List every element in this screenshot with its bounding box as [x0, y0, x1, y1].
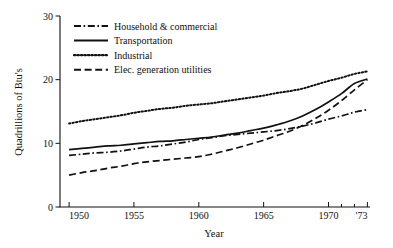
x-axis-tick-label: 1950 [69, 210, 89, 221]
y-axis-tick-label: 30 [43, 11, 53, 22]
legend-item: Elec. generation utilities [74, 64, 212, 75]
legend-item: Transportation [74, 35, 173, 46]
axis-spine [60, 16, 370, 207]
y-axis-tick-label: 0 [48, 202, 53, 213]
x-axis-tick-label: 1965 [254, 210, 274, 221]
x-axis-tick-label: 1970 [318, 210, 338, 221]
y-axis-tick-label: 10 [43, 138, 53, 149]
tick-label-layer: 010203019501955196019651970'73 [43, 11, 367, 221]
x-axis-tick-label: '73 [356, 210, 368, 221]
chart-figure: 010203019501955196019651970'73 Household… [0, 0, 393, 248]
legend-label: Household & commercial [114, 21, 218, 32]
y-axis-title: Quadrillions of Btu's [13, 68, 24, 156]
x-axis-tick-label: 1955 [124, 210, 144, 221]
legend-label: Industrial [114, 50, 153, 61]
x-axis-tick-label: 1960 [189, 210, 209, 221]
y-axis-tick-label: 20 [43, 74, 53, 85]
legend-label: Transportation [114, 35, 173, 46]
series-layer [69, 71, 367, 175]
axis-layer [56, 16, 371, 207]
legend-layer: Household & commercialTransportationIndu… [74, 21, 218, 76]
legend-item: Industrial [74, 50, 153, 61]
legend-label: Elec. generation utilities [114, 64, 212, 75]
energy-consumption-line-chart: 010203019501955196019651970'73 Household… [0, 0, 393, 248]
series-line [69, 80, 367, 176]
legend-item: Household & commercial [74, 21, 218, 32]
series-line [69, 71, 367, 123]
x-axis-title: Year [204, 228, 224, 239]
series-line [69, 79, 367, 150]
